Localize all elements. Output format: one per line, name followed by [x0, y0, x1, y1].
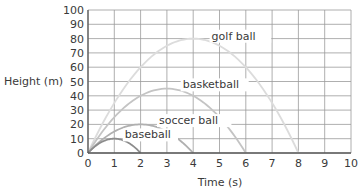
x-axis-label: Time (s): [197, 176, 243, 189]
y-tick-label: 90: [70, 18, 84, 31]
x-tick-label: 7: [269, 157, 276, 170]
label-golf-ball: golf ball: [212, 30, 256, 43]
x-tick-label: 6: [242, 157, 249, 170]
y-tick-label: 50: [70, 76, 84, 89]
y-tick-label: 0: [77, 147, 84, 160]
y-tick-label: 80: [70, 33, 84, 46]
x-tick-label: 10: [344, 157, 358, 170]
y-axis-label: Height (m): [4, 75, 63, 88]
x-tick-label: 1: [111, 157, 118, 170]
x-tick-label: 5: [216, 157, 223, 170]
y-tick-label: 10: [70, 133, 84, 146]
label-baseball: baseball: [125, 128, 171, 141]
y-tick-label: 100: [63, 4, 84, 17]
x-tick-label: 3: [163, 157, 170, 170]
height-vs-time-chart: 0102030405060708090100 012345678910 golf…: [0, 0, 364, 192]
y-tick-label: 30: [70, 104, 84, 117]
x-tick-label: 9: [321, 157, 328, 170]
label-basketball: basketball: [183, 78, 239, 91]
x-tick-label: 8: [295, 157, 302, 170]
y-tick-label: 40: [70, 90, 84, 103]
y-tick-label: 20: [70, 118, 84, 131]
x-tick-label: 4: [190, 157, 197, 170]
y-axis-ticks: 0102030405060708090100: [63, 4, 84, 160]
x-tick-label: 0: [85, 157, 92, 170]
label-soccer-ball: soccer ball: [159, 114, 218, 127]
y-tick-label: 60: [70, 61, 84, 74]
x-axis-ticks: 012345678910: [85, 157, 359, 170]
y-tick-label: 70: [70, 47, 84, 60]
x-tick-label: 2: [137, 157, 144, 170]
